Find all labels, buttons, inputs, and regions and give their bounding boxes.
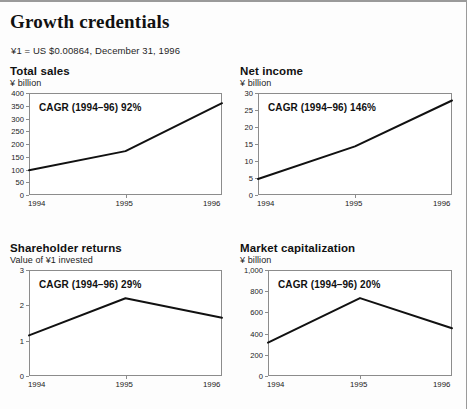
chart-title: Total sales — [10, 65, 222, 77]
cagr-annotation: CAGR (1994–96) 20% — [278, 279, 380, 290]
chart-panel-shareholder-returns: Shareholder returns Value of ¥1 invested… — [10, 242, 222, 390]
series-line — [29, 103, 222, 170]
chart-axis-label: ¥ billion — [240, 78, 452, 88]
chart-panel-net-income: Net income ¥ billion 0510152025301994199… — [240, 65, 452, 209]
series-line — [268, 298, 452, 343]
series-line — [29, 298, 222, 335]
chart-axis-label: ¥ billion — [240, 255, 452, 265]
cagr-annotation: CAGR (1994–96) 146% — [268, 102, 376, 113]
exchange-rate-note: ¥1 = US $0.00864, December 31, 1996 — [11, 45, 180, 56]
chart-title: Net income — [240, 65, 452, 77]
chart-axis-label: ¥ billion — [10, 78, 222, 88]
plot-area: 050100150200250300350400199419951996CAGR… — [10, 93, 222, 209]
figure-page: Growth credentials ¥1 = US $0.00864, Dec… — [0, 0, 467, 409]
plot-area: 0123199419951996CAGR (1994–96) 29% — [10, 270, 222, 390]
chart-axis-label: Value of ¥1 invested — [10, 255, 222, 265]
plot-area: 051015202530199419951996CAGR (1994–96) 1… — [240, 93, 452, 209]
plot-area: 02004006008001,000199419951996CAGR (1994… — [240, 270, 452, 390]
chart-panel-total-sales: Total sales ¥ billion 050100150200250300… — [10, 65, 222, 209]
cagr-annotation: CAGR (1994–96) 92% — [39, 102, 141, 113]
chart-title: Market capitalization — [240, 242, 452, 254]
chart-panel-market-capitalization: Market capitalization ¥ billion 02004006… — [240, 242, 452, 390]
page-title: Growth credentials — [10, 11, 170, 33]
chart-title: Shareholder returns — [10, 242, 222, 254]
cagr-annotation: CAGR (1994–96) 29% — [39, 279, 141, 290]
